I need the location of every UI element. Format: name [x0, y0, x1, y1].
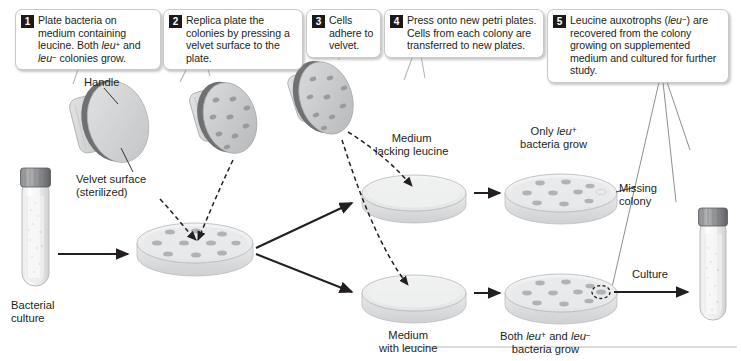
step-callout-3: 3 Cells adhere to velvet. — [306, 9, 381, 58]
label-bacterial-culture: Bacterial culture — [11, 299, 81, 326]
step-badge-5: 5 — [553, 15, 566, 28]
label-medium-with-leucine: Mediumwith leucine — [379, 329, 437, 356]
step-text-3: Cells adhere to velvet. — [329, 14, 374, 52]
step-callout-5: 5 Leucine auxotrophs (leu−) are recovere… — [547, 9, 729, 83]
step-text-2: Replica plate the colonies by pressing a… — [186, 14, 296, 64]
step-callout-4: 4 Press onto new petri plates. Cells fro… — [384, 9, 544, 58]
step-badge-2: 2 — [169, 15, 182, 28]
label-handle: Handle — [84, 76, 119, 89]
step-callout-2: 2 Replica plate the colonies by pressing… — [163, 9, 303, 70]
arrow-master-to-lower-plate — [256, 254, 352, 292]
label-both-leu: Both leu+ and leu−bacteria grow — [500, 329, 591, 357]
plate-with-leucine-empty — [362, 275, 466, 323]
plate-only-leu-plus — [505, 174, 617, 224]
step-badge-3: 3 — [312, 15, 325, 28]
plate-both-leu — [505, 274, 617, 324]
step-text-1: Plate bacteria on medium containing leuc… — [38, 14, 154, 64]
arrow-master-to-upper-plate — [256, 203, 352, 248]
step-callout-1: 1 Plate bacteria on medium containing le… — [15, 9, 161, 70]
label-velvet-surface: Velvet surface (sterilized) — [76, 173, 196, 200]
label-missing-colony: Missing colony — [619, 182, 683, 209]
plate-lacking-leucine-empty — [362, 175, 466, 223]
step-text-5: Leucine auxotrophs (leu−) are recovered … — [570, 14, 722, 77]
label-medium-lacking-leucine: Mediumlacking leucine — [375, 132, 448, 159]
label-only-leu-plus: Only leu+bacteria grow — [520, 124, 587, 152]
velvet-disc-pressed — [188, 75, 265, 160]
master-plate — [137, 223, 253, 276]
step-text-4: Press onto new petri plates. Cells from … — [407, 14, 537, 52]
figure-canvas: 1 Plate bacteria on medium containing le… — [0, 0, 741, 361]
recovered-culture-tube — [699, 208, 728, 320]
label-culture: Culture — [632, 268, 668, 281]
step-badge-1: 1 — [21, 15, 34, 28]
bacterial-culture-tube — [21, 168, 51, 286]
step-badge-4: 4 — [390, 15, 403, 28]
